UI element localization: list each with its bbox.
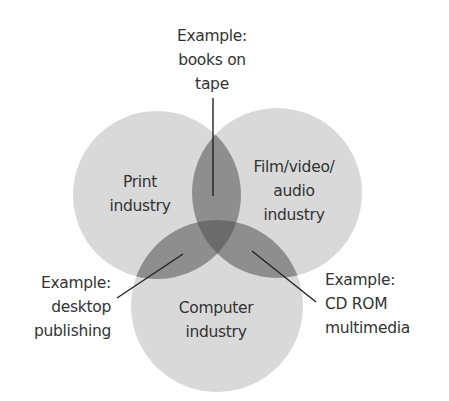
set-label-line: Computer xyxy=(179,296,254,320)
print-industry-label: Print industry xyxy=(109,170,170,218)
callout-line: tape xyxy=(177,72,247,96)
computer-industry-label: Computer industry xyxy=(179,296,254,344)
venn-diagram: Example: books on tape Print industry Fi… xyxy=(0,0,449,401)
set-label-line: Film/video/ xyxy=(254,155,335,179)
callout-line: books on xyxy=(177,48,247,72)
set-label-line: Print xyxy=(109,170,170,194)
cd-rom-multimedia-callout: Example: CD ROM multimedia xyxy=(325,268,410,340)
set-label-line: industry xyxy=(179,320,254,344)
set-label-line: audio xyxy=(254,179,335,203)
set-label-line: industry xyxy=(254,203,335,227)
desktop-publishing-callout: Example: desktop publishing xyxy=(34,271,111,343)
set-label-line: industry xyxy=(109,194,170,218)
callout-line: Example: xyxy=(34,271,111,295)
callout-line: publishing xyxy=(34,319,111,343)
callout-line: CD ROM xyxy=(325,292,410,316)
callout-line: Example: xyxy=(177,24,247,48)
callout-line: desktop xyxy=(34,295,111,319)
film-industry-label: Film/video/ audio industry xyxy=(254,155,335,227)
callout-line: Example: xyxy=(325,268,410,292)
books-on-tape-callout: Example: books on tape xyxy=(177,24,247,96)
callout-line: multimedia xyxy=(325,316,410,340)
